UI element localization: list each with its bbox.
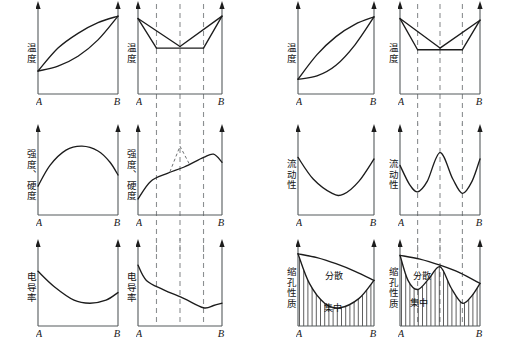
x-axis-label-right: B bbox=[114, 217, 121, 228]
data-curve-1 bbox=[38, 16, 118, 71]
x-axis-label-right: B bbox=[370, 96, 377, 107]
arrowhead-right-icon bbox=[477, 239, 482, 247]
data-curve-4 bbox=[204, 16, 222, 48]
y-axis-title: 温度 bbox=[27, 43, 37, 64]
y-axis-title: 流动性 bbox=[287, 159, 297, 191]
x-axis-label-left: A bbox=[296, 328, 303, 339]
data-curve-3 bbox=[400, 19, 418, 50]
chart-canvas-p11: AB分散集中 bbox=[296, 238, 382, 339]
y-axis-title: 流动性 bbox=[389, 159, 399, 191]
arrowhead-right-icon bbox=[477, 124, 482, 132]
data-curve-1 bbox=[400, 19, 440, 49]
chart-canvas-p5: AB bbox=[36, 123, 126, 230]
y-axis-title: 温度 bbox=[127, 43, 137, 64]
arrowhead-right-icon bbox=[219, 1, 224, 9]
x-axis-label-right: B bbox=[370, 328, 377, 339]
x-axis-label-left: A bbox=[36, 328, 43, 339]
arrowhead-left-icon bbox=[398, 1, 403, 9]
y-axis-title: 缩孔性质 bbox=[389, 267, 399, 309]
y-axis-title: 温度 bbox=[389, 43, 399, 64]
arrowhead-right-icon bbox=[371, 124, 376, 132]
x-axis-label-right: B bbox=[218, 328, 225, 339]
chart-canvas-p9: AB bbox=[36, 238, 126, 339]
data-curve-4 bbox=[462, 20, 480, 50]
data-curve-1 bbox=[38, 271, 118, 303]
chart-panel-p12: AB分散集中缩孔性质 bbox=[398, 238, 488, 339]
x-axis-label-left: A bbox=[398, 217, 405, 228]
chart-panel-p1: AB温度 bbox=[36, 0, 126, 109]
data-curve-2 bbox=[38, 16, 118, 71]
chart-panel-p7: AB流动性 bbox=[296, 123, 382, 230]
data-curve-1 bbox=[138, 19, 180, 47]
data-curve-2 bbox=[180, 16, 222, 46]
x-axis-label-right: B bbox=[370, 217, 377, 228]
chart-canvas-p4: AB bbox=[398, 0, 488, 131]
chart-canvas-p6: AB bbox=[136, 123, 230, 252]
arrowhead-right-icon bbox=[115, 239, 120, 247]
data-curve-2 bbox=[400, 255, 480, 303]
chart-canvas-p8: AB bbox=[398, 123, 488, 252]
y-axis-title: 电导率 bbox=[127, 272, 137, 304]
x-axis-label-right: B bbox=[476, 217, 483, 228]
x-axis-label-left: A bbox=[296, 217, 303, 228]
chart-canvas-p1: AB bbox=[36, 0, 126, 109]
arrowhead-right-icon bbox=[115, 1, 120, 9]
x-axis-label-left: A bbox=[296, 96, 303, 107]
chart-canvas-p3: AB bbox=[296, 0, 382, 109]
x-axis-label-left: A bbox=[136, 96, 143, 107]
chart-canvas-p12: AB分散集中 bbox=[398, 238, 488, 339]
x-axis-label-left: A bbox=[398, 96, 405, 107]
data-curve-1 bbox=[38, 146, 118, 186]
data-curve-1 bbox=[298, 17, 374, 79]
chart-panel-p3: AB温度 bbox=[296, 0, 382, 109]
x-axis-label-right: B bbox=[114, 328, 121, 339]
chart-canvas-p2: AB bbox=[136, 0, 230, 131]
data-curve-2 bbox=[298, 17, 374, 79]
data-curve-2 bbox=[440, 20, 480, 48]
chart-panel-p5: AB强度、硬度 bbox=[36, 123, 126, 230]
arrowhead-right-icon bbox=[371, 1, 376, 9]
chart-canvas-p7: AB bbox=[296, 123, 382, 230]
x-axis-label-right: B bbox=[114, 96, 121, 107]
y-axis-title: 电导率 bbox=[27, 272, 37, 304]
x-axis-label-right: B bbox=[476, 328, 483, 339]
chart-panel-p9: AB电导率 bbox=[36, 238, 126, 339]
y-axis-title: 温度 bbox=[287, 43, 297, 64]
arrowhead-left-icon bbox=[398, 124, 403, 132]
chart-panel-p6: AB强度、硬度 bbox=[136, 123, 230, 252]
region-label-2: 集中 bbox=[324, 302, 342, 313]
chart-panel-p10: AB电导率 bbox=[136, 238, 230, 339]
arrowhead-left-icon bbox=[398, 239, 403, 247]
arrowhead-left-icon bbox=[136, 124, 141, 132]
arrowhead-left-icon bbox=[296, 1, 301, 9]
arrowhead-right-icon bbox=[219, 239, 224, 247]
chart-panel-p4: AB温度 bbox=[398, 0, 488, 131]
x-axis-label-left: A bbox=[136, 217, 143, 228]
data-curve-3 bbox=[138, 19, 156, 49]
data-curve-1 bbox=[298, 157, 374, 195]
arrowhead-left-icon bbox=[136, 239, 141, 247]
chart-panel-p2: AB温度 bbox=[136, 0, 230, 131]
x-axis-label-left: A bbox=[36, 217, 43, 228]
x-axis-label-left: A bbox=[36, 96, 43, 107]
data-curve-1 bbox=[400, 255, 480, 283]
x-axis-label-left: A bbox=[136, 328, 143, 339]
hatch-region-concentrated bbox=[300, 250, 371, 326]
figure-root: AB温度AB温度AB温度AB温度AB强度、硬度AB强度、硬度AB流动性AB流动性… bbox=[0, 0, 517, 339]
x-axis-label-right: B bbox=[218, 217, 225, 228]
arrowhead-left-icon bbox=[36, 1, 41, 9]
arrowhead-left-icon bbox=[296, 239, 301, 247]
x-axis-label-right: B bbox=[476, 96, 483, 107]
y-axis-title: 强度、硬度 bbox=[127, 149, 137, 202]
arrowhead-left-icon bbox=[296, 124, 301, 132]
x-axis-label-left: A bbox=[398, 328, 405, 339]
y-axis-title: 强度、硬度 bbox=[27, 149, 37, 202]
chart-canvas-p10: AB bbox=[136, 238, 230, 339]
arrowhead-left-icon bbox=[36, 239, 41, 247]
arrowhead-left-icon bbox=[36, 124, 41, 132]
arrowhead-right-icon bbox=[371, 239, 376, 247]
arrowhead-right-icon bbox=[219, 124, 224, 132]
y-axis-title: 缩孔性质 bbox=[287, 267, 297, 309]
x-axis-label-right: B bbox=[218, 96, 225, 107]
arrowhead-right-icon bbox=[477, 1, 482, 9]
